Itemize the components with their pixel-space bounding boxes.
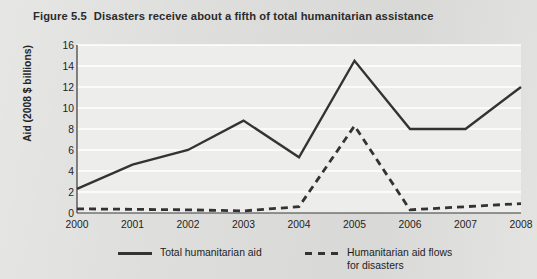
chart-svg (0, 0, 537, 279)
figure-title-text: Disasters receive about a fifth of total… (94, 10, 434, 22)
figure-caption: Figure 5.5Disasters receive about a fift… (33, 10, 434, 22)
chart-plot-area (0, 0, 537, 279)
figure-container: Figure 5.5Disasters receive about a fift… (0, 0, 537, 279)
figure-number: Figure 5.5 (33, 10, 87, 22)
